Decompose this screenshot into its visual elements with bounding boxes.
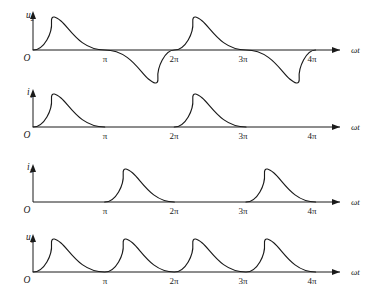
- x-axis-arrow-u2: [332, 47, 340, 53]
- x-axis-label-i1: ωt: [351, 122, 360, 132]
- origin-label-i1: O: [24, 130, 31, 140]
- series-label-i1: i1: [27, 87, 33, 99]
- x-axis-label-uo: ωt: [351, 267, 360, 277]
- x-axis-arrow-i1: [332, 124, 340, 130]
- waveform-curve-i1: [33, 94, 246, 127]
- plot-i1: i1 O π 2π 3π 4π ωt: [24, 87, 361, 141]
- waveform-curve-i2: [105, 169, 316, 202]
- tick-label-pi-i1: π: [103, 131, 108, 141]
- x-axis-label-u2: ωt: [351, 45, 360, 55]
- waveform-curve-uo: [33, 239, 316, 272]
- tick-label-pi-i2: π: [103, 206, 108, 216]
- waveform-figure: u2 O π 2π 3π 4π ωt i1 O π 2π 3π 4π ωt i2…: [0, 0, 378, 301]
- tick-label-2pi-uo: 2π: [169, 276, 179, 286]
- tick-label-3pi-i2: 3π: [238, 206, 248, 216]
- series-label-i2: i2: [27, 162, 34, 174]
- series-label-sub-i1: 1: [30, 92, 33, 99]
- plot-u2: u2 O π 2π 3π 4π ωt: [24, 10, 361, 83]
- tick-label-pi-u2: π: [103, 54, 108, 64]
- tick-label-4pi-i2: 4π: [307, 206, 317, 216]
- plot-uo: uo O π 2π 3π 4π ωt: [24, 232, 361, 286]
- series-label-u2: u2: [26, 10, 35, 22]
- origin-label-u2: O: [24, 53, 31, 63]
- tick-label-pi-uo: π: [103, 276, 108, 286]
- tick-label-4pi-i1: 4π: [307, 131, 317, 141]
- origin-label-i2: O: [24, 205, 31, 215]
- plot-i2: i2 O π 2π 3π 4π ωt: [24, 162, 361, 216]
- tick-label-3pi-u2: 3π: [238, 54, 248, 64]
- x-axis-arrow-uo: [332, 269, 340, 275]
- tick-label-4pi-u2: 4π: [307, 54, 317, 64]
- tick-label-3pi-uo: 3π: [238, 276, 248, 286]
- x-axis-arrow-i2: [332, 199, 340, 205]
- tick-label-3pi-i1: 3π: [238, 131, 248, 141]
- tick-label-2pi-i1: 2π: [169, 131, 179, 141]
- series-label-uo: uo: [26, 232, 35, 244]
- tick-label-4pi-uo: 4π: [307, 276, 317, 286]
- x-axis-label-i2: ωt: [351, 197, 360, 207]
- tick-label-2pi-i2: 2π: [169, 206, 179, 216]
- tick-label-2pi-u2: 2π: [169, 54, 179, 64]
- origin-label-uo: O: [24, 275, 31, 285]
